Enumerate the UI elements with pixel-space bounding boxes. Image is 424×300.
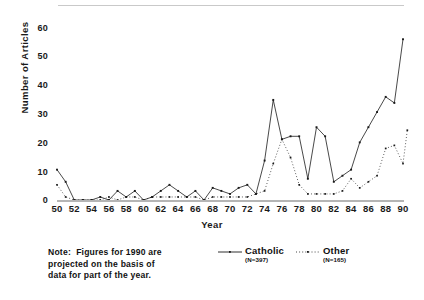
note-line-3: data for part of the year. [48, 270, 223, 282]
x-tick-90: 90 [392, 203, 414, 214]
y-tick-10: 10 [14, 168, 48, 177]
chart-figure: 60 50 40 30 20 10 0 Number of Articles 5… [0, 0, 424, 300]
note-line-2: projected on the basis of [48, 259, 223, 271]
legend-label-catholic: Catholic [245, 245, 284, 256]
y-axis-label: Number of Articles [19, 8, 30, 128]
note-line-1: Note: Figures for 1990 are [48, 247, 223, 259]
catholic-line [57, 39, 403, 200]
y-tick-20: 20 [14, 139, 48, 148]
series-canvas [57, 18, 403, 200]
chart-note: Note: Figures for 1990 are projected on … [48, 247, 223, 282]
x-axis-line [57, 200, 404, 202]
legend-label-other: Other [323, 245, 349, 256]
top-divider-rule [58, 5, 404, 6]
legend-n-other: (N=165) [323, 256, 346, 263]
plot-area [57, 18, 403, 200]
x-axis-label: Year [0, 219, 424, 230]
other-line [57, 130, 407, 200]
chart-legend: Catholic (N=397) Other (N=165) [218, 245, 408, 275]
catholic-legend-swatch-icon [218, 248, 242, 256]
legend-n-catholic: (N=397) [245, 256, 268, 263]
other-legend-swatch-icon [296, 248, 320, 256]
other-markers [56, 129, 408, 200]
catholic-markers [56, 38, 404, 201]
y-tick-0: 0 [14, 196, 48, 205]
